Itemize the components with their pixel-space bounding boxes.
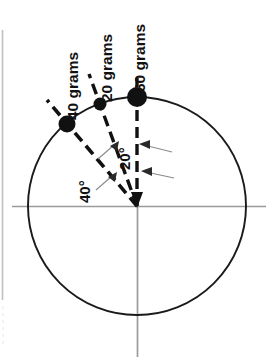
label-angle-40: 40° [76, 180, 93, 203]
label-60-grams: 60 grams [131, 24, 148, 92]
leader-arrow-40-deg [96, 172, 117, 190]
diagram-canvas: 60 grams 20 grams 40 grams 20° 40° [0, 0, 279, 357]
label-40-grams: 40 grams [64, 52, 81, 120]
label-20-grams: 20 grams [98, 34, 115, 102]
diagram-figure: 60 grams 20 grams 40 grams 20° 40° [0, 0, 279, 357]
label-angle-20: 20° [116, 147, 133, 170]
leader-arrows-vertical [139, 140, 174, 178]
